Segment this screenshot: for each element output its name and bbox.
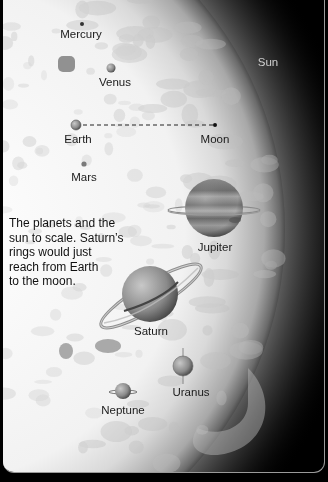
sun-mottle-spot [161,91,187,108]
sun-mottle-spot [3,77,14,91]
mars-planet [81,161,86,166]
sun-mottle-spot [119,34,135,43]
sun-mottle-spot [23,136,37,147]
sun-mottle-spot [36,395,51,407]
sun-mottle-spot [116,126,136,137]
sun-mottle-spot [114,109,126,122]
neptune-label: Neptune [101,405,144,417]
caption-line: to the moon. [9,274,159,289]
sun-mottle-spot [9,176,18,187]
sun-mottle-spot [195,39,226,50]
moon-label: Moon [201,134,230,146]
sun-mottle-spot [125,426,139,435]
uranus-label: Uranus [172,387,209,399]
sun-mottle-spot [156,79,190,90]
sun-mottle-spot [146,35,156,49]
caption-line: sun to scale. Saturn’s [9,231,159,246]
sun-mottle-spot [200,352,231,369]
sun-mottle-spot [158,375,184,386]
sun-label: Sun [258,57,278,69]
sun-mottle-spot [18,84,29,88]
sunspot [95,339,121,353]
sun-mottle-spot [175,198,183,212]
sun-mottle-spot [73,352,94,366]
sun-mottle-spot [35,145,50,157]
sun-mottle-spot [174,21,202,33]
sun-mottle-spot [180,174,192,183]
sun-mottle-spot [31,326,54,336]
sun-mottle-spot [34,380,52,384]
sun-mottle-spot [129,441,144,454]
sun-mottle-spot [229,341,263,359]
sun-mottle-spot [104,133,112,138]
sunspot [59,343,73,359]
sun-mottle-spot [138,417,167,431]
caption-line: The planets and the [9,216,159,231]
sun-mottle-spot [253,270,276,278]
sun-mottle-spot [79,440,106,449]
sun-mottle-spot [216,391,226,406]
sun-mottle-spot [167,225,176,230]
sun-mottle-spot [66,334,83,342]
saturn-label: Saturn [134,326,168,338]
mercury-label: Mercury [60,29,102,41]
venus-label: Venus [99,77,131,89]
venus-planet [107,64,116,73]
sun-mottle-spot [28,55,34,66]
sun-mottle-spot [104,142,113,155]
sun-mottle-spot [146,187,166,199]
jupiter-label: Jupiter [198,242,233,254]
sun-mottle-spot [137,203,150,208]
sun-mottle-spot [142,111,155,120]
moon [213,123,217,127]
sun-mottle-spot [41,70,47,80]
sun-mottle-spot [204,268,215,287]
sun-mottle-spot [50,309,61,321]
sun-mottle-spot [182,245,193,259]
sun-mottle-spot [260,211,276,227]
caption-line: rings would just [9,245,159,260]
sun-mottle-spot [118,101,131,105]
sun-mottle-spot [115,352,133,357]
mars-label: Mars [71,172,97,184]
diagram-panel: Sun Mercury Venus Earth Moon Mars Jupite… [3,0,325,473]
sun-mottle-spot [104,94,117,105]
sun-mottle-spot [130,116,140,127]
sun-mottle-spot [116,44,142,61]
sun-mottle-spot [231,323,249,339]
sun-mottle-spot [180,48,199,61]
sun-mottle-spot [250,157,279,173]
sun-mottle-spot [153,454,181,474]
sun-mottle-spot [169,422,179,433]
sun-mottle-spot [221,87,241,105]
sun-mottle-spot [182,104,199,126]
sun-mottle-spot [203,325,213,335]
sun-mottle-spot [74,109,83,114]
sun-mottle-spot [195,303,230,313]
sun-mottle-spot [79,1,116,16]
sun-mottle-spot [12,156,24,170]
sun-mottle-spot [261,249,285,268]
sunspot [58,56,75,72]
sun-mottle-spot [135,350,142,358]
sun-mottle-spot [86,68,95,75]
caption-line: reach from Earth [9,260,159,275]
sun-mottle-spot [46,367,62,377]
sun-mottle-spot [225,160,245,168]
earth-planet [71,120,81,130]
sun-mottle-spot [129,104,145,111]
caption-text: The planets and the sun to scale. Saturn… [9,216,159,289]
mercury-planet [80,22,84,26]
sun-mottle-spot [127,169,143,182]
sun-mottle-spot [95,42,108,49]
earth-label: Earth [64,134,92,146]
